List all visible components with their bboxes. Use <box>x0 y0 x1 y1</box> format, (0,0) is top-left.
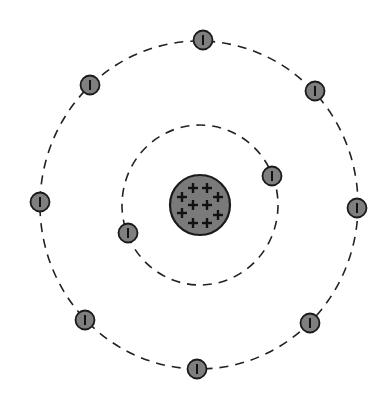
electron <box>301 314 320 333</box>
atom-model-canvas <box>0 0 388 400</box>
electron <box>263 167 282 186</box>
electron <box>76 311 95 330</box>
atom-diagram <box>0 0 388 400</box>
electron <box>306 82 325 101</box>
electron <box>194 31 213 50</box>
electron <box>188 360 207 379</box>
electron <box>119 224 138 243</box>
nucleus <box>170 175 230 235</box>
electron <box>348 199 367 218</box>
nucleus-body <box>170 175 230 235</box>
electron <box>81 76 100 95</box>
electron <box>31 193 50 212</box>
